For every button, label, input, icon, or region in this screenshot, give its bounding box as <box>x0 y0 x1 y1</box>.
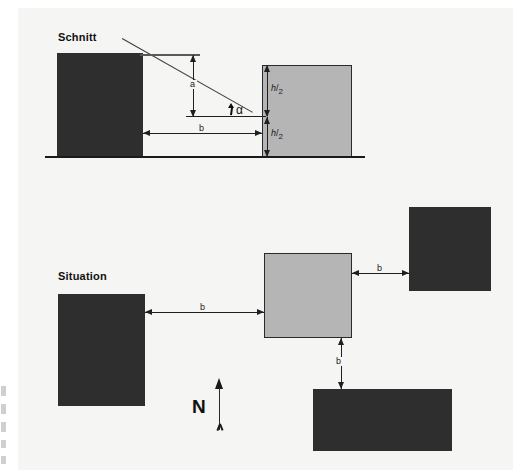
scan-margin-bottom <box>0 470 527 476</box>
scan-bleed-mark <box>1 456 6 464</box>
angle-alpha-label: α <box>236 104 243 116</box>
dimension-b-west-line <box>145 312 264 313</box>
neighbour-building-south <box>313 389 452 451</box>
dimension-half-height-lower-arrow-up <box>264 117 270 124</box>
diagram-page: Schnitt a α b h/2 h/2 Situation b <box>0 0 527 476</box>
neighbour-building-west <box>58 294 145 406</box>
dimension-a-lower-leader <box>186 116 266 117</box>
half-height-upper-denominator: 2 <box>279 87 283 96</box>
dimension-b-section-arrow-right <box>255 130 262 136</box>
dimension-b-section-label: b <box>197 124 206 133</box>
dimension-b-south-arrow-down <box>338 382 344 389</box>
plan-view-title: Situation <box>58 270 107 282</box>
existing-building-dark <box>57 53 143 157</box>
scan-bleed-mark <box>1 440 6 448</box>
scan-bleed-mark <box>1 404 6 414</box>
dimension-b-east-arrow-right <box>402 270 409 276</box>
dimension-b-west-label: b <box>198 303 207 312</box>
dimension-b-south-label: b <box>334 357 343 366</box>
section-view-title: Schnitt <box>58 31 97 43</box>
scan-margin-right <box>513 0 527 476</box>
new-building-gray <box>262 65 352 157</box>
dimension-half-height-lower-label: h/2 <box>271 129 283 141</box>
scan-margin-top <box>0 0 527 8</box>
scan-bleed-mark <box>1 422 6 432</box>
dimension-a-label: a <box>188 80 197 89</box>
dimension-b-section-line <box>143 133 262 134</box>
dimension-b-east-arrow-left <box>352 270 359 276</box>
dimension-b-west-arrow-right <box>257 309 264 315</box>
dimension-half-height-upper-label: h/2 <box>271 84 283 96</box>
dimension-half-height-upper-arrow-up <box>264 65 270 72</box>
dimension-half-height-upper-line <box>267 66 268 116</box>
dimension-b-east-label: b <box>375 264 384 273</box>
dimension-half-height-upper-arrow-down <box>264 110 270 117</box>
dimension-a-arrow-down <box>190 110 196 117</box>
ground-line <box>45 156 365 158</box>
angle-alpha-tick-arrow <box>228 103 234 108</box>
dimension-b-west-arrow-left <box>145 309 152 315</box>
scan-bleed-mark <box>1 386 6 396</box>
dimension-b-section-arrow-left <box>143 130 150 136</box>
north-arrow-letter: N <box>192 397 206 416</box>
dimension-b-south-arrow-up <box>338 338 344 345</box>
subject-building-gray <box>264 253 352 338</box>
dimension-b-east-line <box>352 273 409 274</box>
neighbour-building-northeast <box>409 207 491 291</box>
half-height-lower-denominator: 2 <box>279 132 283 141</box>
dimension-half-height-lower-arrow-down <box>264 150 270 157</box>
dimension-a-arrow-up <box>190 55 196 62</box>
